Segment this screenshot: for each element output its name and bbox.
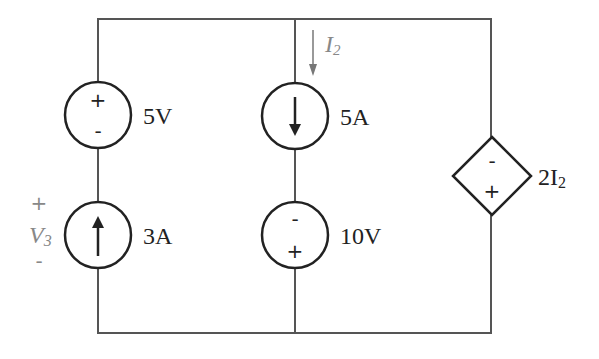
label-10v: 10V	[340, 223, 382, 249]
v3-minus: -	[35, 249, 42, 273]
label-3a: 3A	[143, 223, 173, 249]
voltage-source-10v: - + 10V	[262, 202, 382, 268]
minus-sign: -	[291, 207, 298, 231]
v3-plus: +	[31, 191, 48, 215]
voltage-source-5v: + - 5V	[65, 82, 173, 148]
plus-sign: +	[90, 88, 107, 112]
current-source-3a: 3A	[65, 202, 173, 268]
i2-label: I2	[324, 31, 341, 58]
i2-annotation: I2	[309, 30, 341, 76]
v3-label: V3	[29, 222, 52, 249]
v3-annotation: + V3 -	[29, 191, 52, 273]
circuit-diagram: + - 5V 3A + V3 - I2 5A - + 10V - +	[0, 0, 599, 359]
dependent-voltage-source: - + 2I2	[453, 137, 566, 215]
label-5a: 5A	[340, 104, 370, 130]
plus-sign: +	[484, 179, 501, 203]
plus-sign: +	[287, 239, 304, 263]
current-source-5a: 5A	[262, 83, 370, 149]
minus-sign: -	[94, 119, 101, 143]
label-2i2: 2I2	[538, 164, 566, 191]
wires	[98, 19, 491, 333]
minus-sign: -	[488, 149, 495, 173]
label-5v: 5V	[143, 103, 173, 129]
